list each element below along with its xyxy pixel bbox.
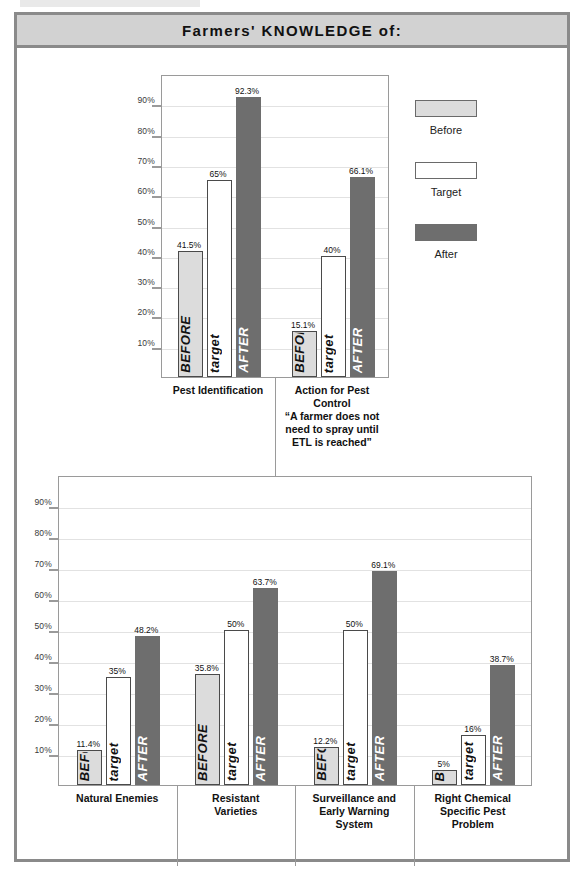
y-axis-tick-mark xyxy=(49,538,58,540)
bar-value-label: 12.2% xyxy=(302,736,349,746)
y-axis-tick-mark xyxy=(49,631,58,633)
legend-item-target[interactable]: Target xyxy=(407,162,485,198)
bar-value-label: 35.8% xyxy=(183,663,230,673)
y-axis-tick-label: 10% xyxy=(125,338,155,348)
gridline xyxy=(59,508,531,509)
y-axis-tick-label: 90% xyxy=(22,497,52,507)
y-axis-tick-mark xyxy=(49,693,58,695)
category-label-line: Action for Pest xyxy=(275,384,389,397)
bar-value-label: 50% xyxy=(212,619,259,629)
y-axis-tick-mark xyxy=(49,569,58,571)
bar-inline-label: BEFORE xyxy=(315,749,338,781)
y-axis-tick-mark xyxy=(152,196,161,198)
y-axis-tick-label: 90% xyxy=(125,95,155,105)
category-label-line: ETL is reached” xyxy=(275,436,389,449)
bar-value-label: 11.4% xyxy=(65,739,112,749)
bar-after: AFTER xyxy=(135,636,160,785)
legend-item-after[interactable]: After xyxy=(407,224,485,260)
bar-inline-label: AFTER xyxy=(373,573,396,781)
bar-before: BEFORE xyxy=(77,750,102,785)
y-axis-tick-label: 60% xyxy=(125,186,155,196)
category-label-line: Varieties xyxy=(177,805,296,818)
bar-value-label: 92.3% xyxy=(224,86,271,96)
category-label-line: Right Chemical xyxy=(414,792,533,805)
figure-frame: Farmers' KNOWLEDGE of: BEFOREtargetAFTER… xyxy=(14,12,570,862)
y-axis-tick-mark xyxy=(152,287,161,289)
bar-inline-label: target xyxy=(322,258,345,373)
bar-before: BEFORE xyxy=(195,674,220,785)
bar-after: AFTER xyxy=(350,177,375,377)
bar-before: BEFORE xyxy=(178,251,203,377)
bar-inline-label: AFTER xyxy=(136,638,159,781)
gridline xyxy=(59,570,531,571)
category-label-line: Pest Identification xyxy=(161,384,275,397)
y-axis-tick-label: 70% xyxy=(22,559,52,569)
category-label-line: Problem xyxy=(414,818,533,831)
page-top-bleed xyxy=(20,0,200,7)
bar-before: BEFORE xyxy=(292,331,317,377)
bar-inline-label: AFTER xyxy=(237,99,260,373)
y-axis-tick-label: 30% xyxy=(22,683,52,693)
category-separator xyxy=(295,786,296,866)
y-axis-tick-label: 30% xyxy=(125,277,155,287)
bar-inline-label: target xyxy=(344,632,367,781)
y-axis-tick-label: 50% xyxy=(22,621,52,631)
bar-inline-label: target xyxy=(208,182,231,373)
y-axis-tick-mark xyxy=(49,600,58,602)
category-label-line: System xyxy=(295,818,414,831)
category-separator xyxy=(414,786,415,866)
y-axis-tick-mark xyxy=(152,136,161,138)
y-axis-tick-mark xyxy=(152,166,161,168)
legend-item-before[interactable]: Before xyxy=(407,100,485,136)
category-label-line: Early Warning xyxy=(295,805,414,818)
category-label: Right ChemicalSpecific PestProblem xyxy=(414,792,533,831)
bar-inline-label: BEFORE xyxy=(196,676,219,781)
category-separator xyxy=(275,378,276,478)
y-axis-tick-label: 40% xyxy=(125,247,155,257)
bar-value-label: 15.1% xyxy=(280,320,327,330)
y-axis-tick-label: 20% xyxy=(22,714,52,724)
bar-target: target xyxy=(343,630,368,785)
bar-value-label: 35% xyxy=(94,666,141,676)
gridline xyxy=(162,137,388,138)
category-label: Surveillance andEarly WarningSystem xyxy=(295,792,414,831)
bar-value-label: 5% xyxy=(420,759,467,769)
y-axis-tick-mark xyxy=(152,227,161,229)
category-label-line: Resistant xyxy=(177,792,296,805)
category-label-line: Control xyxy=(275,397,389,410)
bar-value-label: 48.2% xyxy=(123,625,170,635)
y-axis-tick-mark xyxy=(152,348,161,350)
y-axis-tick-label: 80% xyxy=(125,126,155,136)
y-axis-tick-mark xyxy=(49,507,58,509)
category-separator xyxy=(177,786,178,866)
category-label: Natural Enemies xyxy=(58,792,177,805)
legend-label-after: After xyxy=(407,248,485,260)
y-axis-tick-mark xyxy=(49,755,58,757)
gridline xyxy=(59,663,531,664)
bar-value-label: 65% xyxy=(195,169,242,179)
legend-swatch-target xyxy=(415,162,477,179)
bar-after: AFTER xyxy=(236,97,261,377)
bar-value-label: 63.7% xyxy=(241,577,288,587)
y-axis-tick-label: 80% xyxy=(22,528,52,538)
legend-swatch-before xyxy=(415,100,477,117)
bar-value-label: 66.1% xyxy=(338,166,385,176)
y-axis-tick-mark xyxy=(152,105,161,107)
y-axis-tick-label: 70% xyxy=(125,156,155,166)
y-axis-tick-mark xyxy=(49,724,58,726)
category-label-line: Natural Enemies xyxy=(58,792,177,805)
y-axis-tick-label: 20% xyxy=(125,307,155,317)
bar-target: target xyxy=(106,677,131,786)
bar-inline-label: target xyxy=(225,632,248,781)
gridline xyxy=(59,601,531,602)
y-axis-tick-label: 50% xyxy=(125,217,155,227)
gridline xyxy=(162,106,388,107)
legend-label-before: Before xyxy=(407,124,485,136)
bar-inline-label: BEFORE xyxy=(433,772,456,782)
y-axis-tick-label: 40% xyxy=(22,652,52,662)
y-axis-tick-label: 10% xyxy=(22,745,52,755)
bar-after: AFTER xyxy=(253,588,278,785)
page-title: Farmers' KNOWLEDGE of: xyxy=(182,22,402,39)
bar-target: target xyxy=(321,256,346,377)
category-label: ResistantVarieties xyxy=(177,792,296,818)
